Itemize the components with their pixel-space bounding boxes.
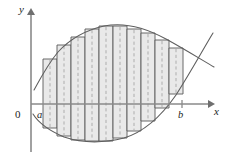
y-axis-label: y (18, 3, 24, 15)
origin-label: 0 (15, 108, 21, 120)
y-axis-arrow-icon (27, 8, 35, 15)
strip-8 (141, 33, 155, 121)
strip-6 (113, 26, 127, 138)
strip-9 (155, 40, 169, 108)
strip-rect (43, 59, 57, 128)
x-axis-label: x (213, 105, 219, 117)
point-label-a: a (37, 109, 42, 120)
math-figure-svg: y x 0 a b (0, 0, 225, 162)
strip-rect (155, 40, 169, 108)
point-label-b: b (178, 109, 183, 120)
strip-1 (43, 59, 57, 128)
strip-group (43, 26, 183, 141)
strip-4 (85, 29, 99, 141)
strip-5 (99, 26, 113, 141)
strip-7 (127, 29, 141, 131)
strip-rect (99, 26, 113, 141)
strip-2 (57, 45, 71, 136)
strip-3 (71, 37, 85, 140)
figure-container: y x 0 a b (0, 0, 225, 162)
